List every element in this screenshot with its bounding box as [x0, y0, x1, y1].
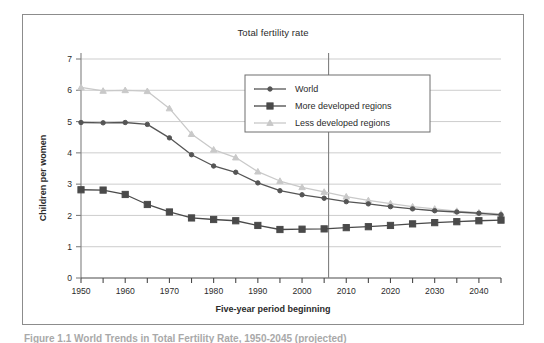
data-point — [477, 211, 481, 215]
data-point — [256, 181, 260, 185]
data-point — [410, 207, 414, 211]
data-point — [499, 213, 503, 217]
svg-text:1970: 1970 — [160, 286, 179, 296]
svg-text:2040: 2040 — [469, 286, 488, 296]
data-point — [101, 121, 105, 125]
y-tick-labels: 01234567 — [67, 54, 72, 283]
data-point — [255, 168, 261, 174]
data-point — [145, 122, 149, 126]
svg-text:0: 0 — [67, 273, 72, 283]
svg-text:5: 5 — [67, 117, 72, 127]
svg-text:3: 3 — [67, 179, 72, 189]
data-point — [300, 193, 304, 197]
svg-text:1960: 1960 — [116, 286, 135, 296]
legend-label: More developed regions — [295, 101, 392, 111]
data-point — [167, 136, 171, 140]
data-point — [79, 120, 83, 124]
data-point — [366, 202, 370, 206]
data-point — [100, 187, 106, 193]
svg-text:2020: 2020 — [381, 286, 400, 296]
fertility-rate-line-chart: 1950196019701980199020002010202020302040… — [23, 15, 522, 323]
x-tick-marks — [81, 278, 501, 283]
data-point — [211, 216, 217, 222]
figure-frame: Total fertility rate 1950196019701980199… — [22, 14, 524, 325]
legend-label: World — [295, 84, 318, 94]
data-point — [476, 218, 482, 224]
data-point — [388, 204, 392, 208]
data-point — [144, 201, 150, 207]
data-point — [189, 153, 193, 157]
data-point — [188, 215, 194, 221]
y-tick-marks — [76, 59, 81, 278]
data-point — [277, 226, 283, 232]
chart-legend: WorldMore developed regionsLess develope… — [245, 75, 430, 132]
svg-text:6: 6 — [67, 85, 72, 95]
data-point — [211, 164, 215, 168]
svg-text:2: 2 — [67, 211, 72, 221]
data-point — [267, 103, 273, 109]
data-point — [455, 210, 459, 214]
data-point — [322, 196, 326, 200]
svg-text:1980: 1980 — [204, 286, 223, 296]
data-point — [299, 226, 305, 232]
data-point — [78, 84, 84, 90]
data-point — [234, 170, 238, 174]
svg-text:1950: 1950 — [71, 286, 90, 296]
legend-label: Less developed regions — [295, 118, 391, 128]
svg-text:2000: 2000 — [292, 286, 311, 296]
svg-text:7: 7 — [67, 54, 72, 64]
svg-text:1: 1 — [67, 242, 72, 252]
svg-text:2030: 2030 — [425, 286, 444, 296]
data-point — [454, 219, 460, 225]
data-point — [365, 224, 371, 230]
data-point — [432, 209, 436, 213]
svg-text:4: 4 — [67, 148, 72, 158]
y-axis-label: Children per women — [38, 88, 48, 268]
data-point — [321, 226, 327, 232]
data-point — [344, 199, 348, 203]
data-point — [255, 222, 261, 228]
data-point — [166, 209, 172, 215]
x-axis-label: Five-year period beginning — [23, 304, 523, 314]
data-point — [343, 225, 349, 231]
data-point — [409, 221, 415, 227]
data-point — [432, 220, 438, 226]
data-point — [278, 189, 282, 193]
data-point — [387, 222, 393, 228]
svg-text:1990: 1990 — [248, 286, 267, 296]
figure-caption: Figure 1.1 World Trends in Total Fertili… — [24, 333, 494, 343]
svg-text:2010: 2010 — [337, 286, 356, 296]
data-point — [123, 120, 127, 124]
data-point — [498, 217, 504, 223]
data-point — [122, 191, 128, 197]
x-tick-labels: 1950196019701980199020002010202020302040 — [71, 286, 488, 296]
data-point — [233, 218, 239, 224]
data-point — [268, 87, 272, 91]
data-point — [78, 187, 84, 193]
